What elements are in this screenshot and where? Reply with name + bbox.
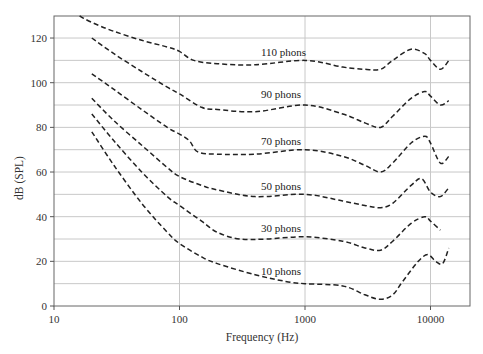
- curve-label: 110 phons: [261, 46, 306, 58]
- curve-110-phons: [80, 16, 449, 70]
- curve-label: 10 phons: [261, 265, 301, 277]
- y-tick-label: 0: [42, 300, 48, 312]
- x-axis: 10100100010000: [49, 306, 445, 325]
- y-tick-label: 60: [36, 166, 48, 178]
- y-tick-label: 100: [31, 77, 48, 89]
- plot-frame: [54, 16, 470, 306]
- y-tick-label: 20: [36, 255, 48, 267]
- x-tick-label: 10: [49, 313, 61, 325]
- y-tick-label: 80: [36, 121, 48, 133]
- curve-labels: 110 phons90 phons70 phons50 phons30 phon…: [261, 46, 306, 277]
- x-tick-label: 1000: [294, 313, 317, 325]
- curve-label: 90 phons: [261, 88, 301, 100]
- x-tick-label: 100: [171, 313, 188, 325]
- y-axis: 020406080100120: [31, 32, 55, 312]
- curve-label: 30 phons: [261, 222, 301, 234]
- grid-lines: [54, 16, 470, 306]
- x-axis-title: Frequency (Hz): [226, 331, 299, 344]
- curve-label: 70 phons: [261, 135, 301, 147]
- y-tick-label: 120: [31, 32, 48, 44]
- phon-curves: [80, 16, 449, 299]
- y-axis-title: dB (SPL): [13, 156, 26, 200]
- x-tick-label: 10000: [417, 313, 445, 325]
- y-tick-label: 40: [36, 211, 48, 223]
- equal-loudness-chart: 020406080100120 10100100010000 110 phons…: [0, 0, 483, 354]
- curve-label: 50 phons: [261, 180, 301, 192]
